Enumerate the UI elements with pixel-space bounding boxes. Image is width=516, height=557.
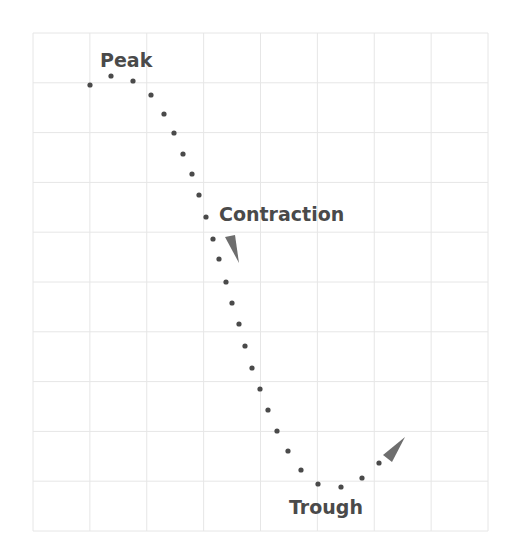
contraction-arrow-icon (225, 235, 239, 263)
curve-dot (265, 407, 270, 412)
curve-dot (189, 171, 194, 176)
curve-dot (171, 130, 176, 135)
curve-dot (315, 481, 320, 486)
curve-dot (108, 73, 113, 78)
curve-dot (274, 428, 279, 433)
curve-dot (249, 365, 254, 370)
curve-dot (216, 256, 221, 261)
curve-dot (229, 300, 234, 305)
curve-dot (223, 279, 228, 284)
curve-dot (376, 460, 381, 465)
curve-dot (236, 321, 241, 326)
arrows (225, 235, 405, 462)
curve-dot (180, 151, 185, 156)
contraction-label: Contraction (219, 203, 344, 225)
grid (33, 33, 488, 531)
curve-dot (257, 386, 262, 391)
curve-dot (210, 236, 215, 241)
curve-dot (161, 111, 166, 116)
expansion-arrow-icon (383, 437, 405, 462)
curve-dot (359, 475, 364, 480)
curve-dot (87, 82, 92, 87)
curve-dot (203, 214, 208, 219)
curve-dot (130, 78, 135, 83)
business-cycle-diagram: Peak Contraction Trough (0, 0, 516, 557)
curve-dot (242, 343, 247, 348)
curve-dot (298, 467, 303, 472)
curve-dot (338, 484, 343, 489)
curve-dot (196, 192, 201, 197)
peak-label: Peak (100, 49, 153, 71)
trough-label: Trough (289, 496, 363, 518)
curve-dot (285, 448, 290, 453)
curve-dot (148, 92, 153, 97)
